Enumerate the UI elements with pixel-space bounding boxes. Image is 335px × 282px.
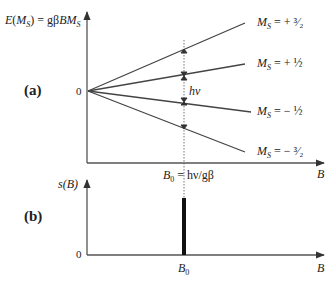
level-label-plus-3-2: MS = + ³⁄₂ (256, 15, 303, 31)
panel-tag-a: (a) (24, 82, 42, 99)
level-label-minus-1-2: MS = − ½ (256, 104, 303, 120)
origin-label-a: 0 (76, 85, 82, 97)
origin-label-b: 0 (76, 248, 82, 260)
x-axis-label-a: B (317, 167, 325, 181)
level-label-minus-3-2: MS = − ³⁄₂ (256, 144, 303, 160)
level-line-plus-1-2 (88, 64, 245, 91)
panel-tag-b: (b) (24, 208, 42, 225)
arrow-head-icon (181, 49, 187, 53)
peak-label: B0 (178, 261, 189, 277)
y-axis-label-a: E(MS) = gβBMS (4, 13, 81, 29)
level-line-plus-3-2 (88, 23, 245, 91)
panel-a: hν E(MS) = gβBMS (a) 0 B MS = + ³⁄₂ MS =… (4, 12, 325, 198)
level-line-minus-1-2 (88, 91, 251, 112)
level-label-plus-1-2: MS = + ½ (256, 56, 303, 72)
level-line-minus-3-2 (88, 91, 245, 152)
panel-b: s(B) (b) 0 B B0 (24, 177, 325, 277)
y-axis-label-b: s(B) (58, 177, 78, 191)
transition-label: hν (189, 84, 201, 98)
zeeman-diagram: hν E(MS) = gβBMS (a) 0 B MS = + ³⁄₂ MS =… (0, 0, 335, 282)
arrow-head-icon (181, 125, 187, 129)
arrow-head-icon (181, 76, 187, 80)
x-axis-label-b: B (317, 261, 325, 275)
resonance-label: B0 = hν/gβ (163, 168, 214, 184)
